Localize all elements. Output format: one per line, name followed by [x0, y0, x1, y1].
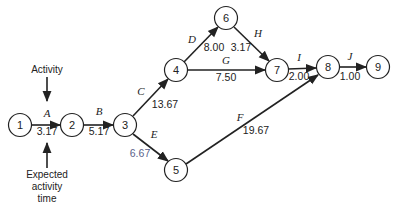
- expected-time-annotation-line1: Expected: [26, 169, 68, 180]
- node-label: 7: [274, 64, 280, 76]
- activity-annotation: Activity: [31, 64, 63, 75]
- activity-time-D: 8.00: [204, 41, 225, 53]
- activity-time-J: 1.00: [340, 70, 361, 82]
- activity-time-A: 3.17: [37, 125, 58, 137]
- activity-label-H: H: [253, 27, 263, 39]
- node-label: 8: [325, 61, 331, 73]
- node-label: 5: [173, 164, 179, 176]
- node-label: 2: [69, 119, 75, 131]
- edge-I: [288, 68, 316, 69]
- activity-label-A: A: [43, 107, 51, 119]
- activity-time-H: 3.17: [231, 41, 252, 53]
- activity-time-E: 6.67: [130, 147, 151, 159]
- node-3: 3: [114, 114, 137, 137]
- activity-time-G: 7.50: [216, 71, 237, 83]
- node-1: 1: [9, 114, 32, 137]
- activity-label-J: J: [348, 50, 354, 62]
- activity-time-C: 13.67: [152, 98, 178, 110]
- activity-label-F: F: [236, 111, 244, 123]
- activity-time-F: 19.67: [243, 124, 269, 136]
- node-6: 6: [215, 7, 238, 30]
- node-5: 5: [165, 159, 188, 182]
- activity-label-I: I: [296, 51, 302, 63]
- activity-label-B: B: [96, 105, 103, 117]
- node-label: 4: [173, 64, 179, 76]
- node-8: 8: [317, 56, 340, 79]
- activity-label-E: E: [150, 128, 158, 140]
- node-9: 9: [367, 56, 390, 79]
- edges: [31, 27, 366, 168]
- node-label: 3: [122, 119, 128, 131]
- edge-F: [186, 75, 318, 164]
- activity-label-D: D: [187, 33, 196, 45]
- node-4: 4: [165, 59, 188, 82]
- activity-time-B: 5.17: [89, 125, 110, 137]
- pert-network-diagram: 1 2 3 4 5 6 7 8 9 A B C D E F G H I J 3.…: [0, 0, 398, 205]
- node-label: 1: [17, 119, 23, 131]
- activity-label-C: C: [137, 85, 145, 97]
- activity-time-I: 2.00: [289, 70, 310, 82]
- node-label: 6: [223, 12, 229, 24]
- node-7: 7: [266, 59, 289, 82]
- node-label: 9: [375, 61, 381, 73]
- expected-time-annotation-line2: activity: [32, 181, 63, 192]
- activity-label-G: G: [222, 54, 230, 66]
- expected-time-annotation-line3: time: [38, 193, 57, 204]
- node-2: 2: [61, 114, 84, 137]
